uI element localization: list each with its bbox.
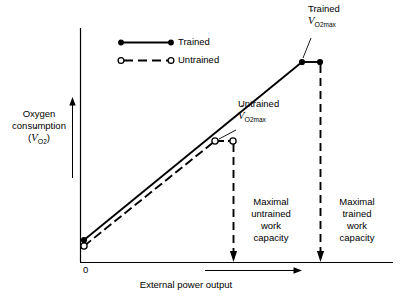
cap-trained-line2: trained: [325, 208, 389, 220]
label-maximal-untrained-work-capacity: Maximal untrained work capacity: [238, 196, 304, 244]
untrained-end-marker: [230, 138, 236, 144]
legend-item-trained[interactable]: Trained: [178, 36, 210, 48]
series-untrained: [81, 138, 236, 249]
annotation-untrained-vo2max-line1: Untrained: [238, 98, 279, 110]
v-dot-symbol: V: [31, 132, 37, 144]
cap-untrained-line1: Maximal: [238, 196, 304, 208]
x-axis-direction-arrow: [205, 267, 302, 273]
untrained-capacity-arrowhead: [230, 251, 237, 262]
cap-trained-line1: Maximal: [325, 196, 389, 208]
trained-vo2max-marker: [299, 59, 305, 65]
trained-capacity-arrowhead: [317, 251, 324, 262]
cap-untrained-line2: untrained: [238, 208, 304, 220]
cap-trained-line3: work: [325, 220, 389, 232]
annotation-untrained-vo2max-symbol: VO2max: [238, 110, 279, 122]
trained-annotation-leader-line: [303, 38, 311, 58]
annotation-trained-vo2max: Trained VO2max: [308, 3, 340, 27]
trained-start-marker: [81, 237, 87, 243]
legend-marker-untrained: [118, 58, 174, 64]
reference-line-untrained-capacity: [230, 144, 237, 262]
cap-untrained-line4: capacity: [238, 232, 304, 244]
y-axis-label-line1: Oxygen: [8, 108, 70, 120]
cap-untrained-line3: work: [238, 220, 304, 232]
annotation-trained-vo2max-symbol: VO2max: [308, 15, 340, 27]
annotation-untrained-vo2max: Untrained VO2max: [238, 98, 279, 122]
label-maximal-trained-work-capacity: Maximal trained work capacity: [325, 196, 389, 244]
figure-container: Oxygen consumption (VO2) Trained Untrain…: [0, 0, 400, 297]
x-axis-origin-tick-label: 0: [83, 264, 88, 276]
x-axis-label: External power output: [140, 279, 232, 291]
reference-line-trained-capacity: [317, 65, 324, 262]
legend-item-untrained[interactable]: Untrained: [178, 54, 219, 66]
v-dot-symbol: V: [238, 110, 244, 122]
legend-marker-trained: [118, 40, 174, 46]
untrained-start-marker: [81, 243, 87, 249]
y-axis-label-symbol: (VO2): [8, 132, 70, 144]
untrained-vo2max-marker: [212, 138, 218, 144]
y-axis-label-line2: consumption: [8, 120, 70, 132]
cap-trained-line4: capacity: [325, 232, 389, 244]
trained-end-marker: [317, 59, 323, 65]
y-axis-label: Oxygen consumption (VO2): [8, 108, 70, 144]
v-dot-symbol: V: [308, 15, 314, 27]
untrained-rising-segment: [84, 141, 215, 246]
y-axis-direction-arrow: [69, 97, 75, 178]
